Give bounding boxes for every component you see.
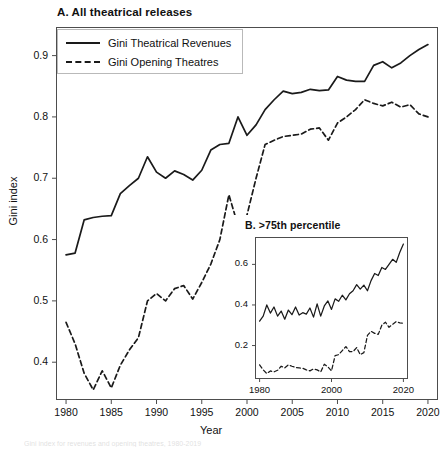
panel-b-title: B. >75th percentile: [245, 219, 341, 231]
main-xtick-2005: 2005: [270, 406, 314, 418]
main-ytick-0.5: 0.5: [22, 294, 48, 306]
legend-key-solid-icon: [66, 42, 100, 44]
main-ytick-0.7: 0.7: [22, 171, 48, 183]
legend-key-dashed-icon: [66, 61, 100, 63]
legend: Gini Theatrical Revenues Gini Opening Th…: [57, 29, 243, 74]
figure-root: A. All theatrical releases Gini index Ye…: [0, 0, 446, 449]
inset-xtick-2020: 2020: [381, 384, 425, 395]
main-ytick-0.8: 0.8: [22, 110, 48, 122]
inset-xtick-2000: 2000: [310, 384, 354, 395]
inset-backdrop: [232, 215, 412, 385]
inset-ytick-0.4: 0.4: [222, 298, 248, 309]
legend-label-revenues: Gini Theatrical Revenues: [108, 37, 231, 49]
main-ytick-0.4: 0.4: [22, 355, 48, 367]
bottom-caption-fragment: Gini index for revenues and opening thea…: [24, 440, 424, 447]
legend-label-theatres: Gini Opening Theatres: [108, 56, 218, 68]
inset-ytick-0.6: 0.6: [222, 257, 248, 268]
main-xtick-1980: 1980: [44, 406, 88, 418]
main-xtick-2010: 2010: [315, 406, 359, 418]
main-xtick-1995: 1995: [180, 406, 224, 418]
legend-entry-theatres: Gini Opening Theatres: [66, 53, 218, 71]
main-ytick-0.6: 0.6: [22, 233, 48, 245]
main-ytick-0.9: 0.9: [22, 49, 48, 61]
main-xtick-2015: 2015: [361, 406, 405, 418]
main-xtick-1985: 1985: [89, 406, 133, 418]
main-xtick-2000: 2000: [225, 406, 269, 418]
main-xtick-1990: 1990: [135, 406, 179, 418]
inset-ytick-0.2: 0.2: [222, 339, 248, 350]
main-xtick-2020: 2020: [406, 406, 446, 418]
legend-entry-revenues: Gini Theatrical Revenues: [66, 34, 231, 52]
inset-xtick-1980: 1980: [238, 384, 282, 395]
